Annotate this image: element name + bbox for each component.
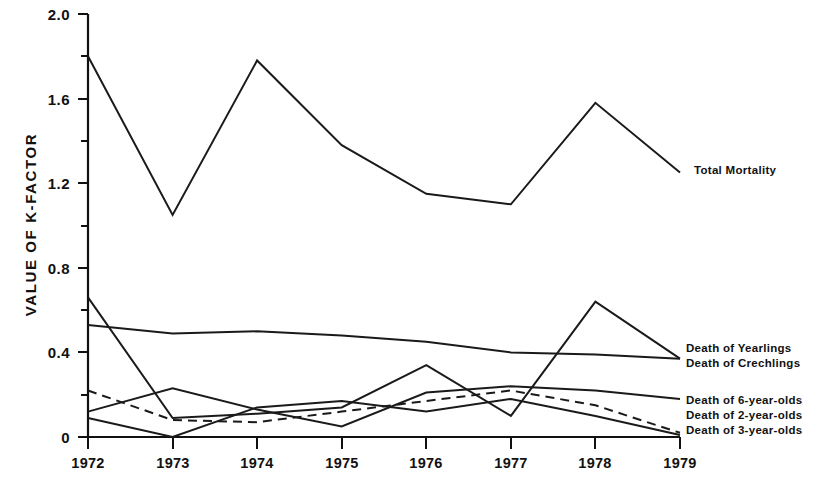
y-tick-label-1.2: 1.2 (48, 175, 70, 192)
legend-label-crechlings: Death of Crechlings (686, 357, 800, 369)
y-tick-label-0: 0 (61, 429, 70, 446)
chart-figure: VALUE OF K-FACTOR 2.0 1.6 1.2 0.8 0.4 (0, 0, 831, 480)
series-line-death-of-2-year-olds (88, 391, 680, 433)
x-tick-label-1973: 1973 (156, 455, 189, 471)
axis-lines (88, 14, 680, 437)
x-tick-label-1974: 1974 (240, 455, 273, 471)
chart-plot-area: 2.0 1.6 1.2 0.8 0.4 0 1972 1973 1974 197… (0, 0, 831, 480)
legend-label-2-year-olds: Death of 2-year-olds (686, 409, 803, 421)
x-tick-label-1979: 1979 (663, 455, 696, 471)
series-line-death-of-yearlings (88, 297, 680, 418)
y-tick-label-1.6: 1.6 (48, 91, 70, 108)
legend-label-yearlings: Death of Yearlings (686, 342, 792, 354)
y-tick-label-2.0: 2.0 (48, 6, 70, 23)
y-tick-label-0.8: 0.8 (48, 260, 70, 277)
series-layer (88, 56, 680, 437)
x-tick-label-1977: 1977 (494, 455, 527, 471)
y-tick-label-0.4: 0.4 (48, 344, 71, 361)
x-tick-label-1975: 1975 (325, 455, 358, 471)
legend-label-6-year-olds: Death of 6-year-olds (686, 394, 803, 406)
x-tick-label-1976: 1976 (409, 455, 442, 471)
series-line-death-of-crechlings (88, 325, 680, 359)
legend-label-total-mortality: Total Mortality (694, 164, 777, 176)
legend-label-3-year-olds: Death of 3-year-olds (686, 424, 803, 436)
x-tick-label-1978: 1978 (578, 455, 611, 471)
series-line-total-mortality (88, 56, 680, 215)
x-tick-label-1972: 1972 (71, 455, 104, 471)
x-axis-ticks: 1972 1973 1974 1975 1976 1977 1978 1979 (71, 437, 696, 471)
legend-group: Total Mortality Death of Yearlings Death… (686, 164, 803, 436)
y-axis-ticks: 2.0 1.6 1.2 0.8 0.4 0 (48, 6, 88, 446)
